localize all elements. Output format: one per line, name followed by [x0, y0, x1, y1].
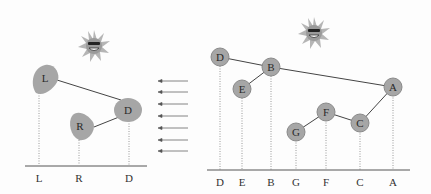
left-node-L: L	[33, 65, 59, 94]
right-axis-label: D	[216, 176, 224, 188]
right-node-B: B	[262, 58, 280, 76]
svg-text:D: D	[124, 104, 132, 116]
right-nodes: D B E A F G C	[211, 48, 402, 141]
svg-text:F: F	[323, 106, 329, 118]
left-axis-label: R	[75, 172, 83, 184]
left-node-D: D	[114, 98, 142, 122]
left-axis-label: D	[125, 172, 133, 184]
right-axis-label: A	[389, 176, 397, 188]
right-axis-label: G	[292, 176, 300, 188]
left-axis-label: L	[36, 172, 43, 184]
svg-text:E: E	[239, 83, 246, 95]
right-axis-label: F	[323, 176, 329, 188]
left-node-R: R	[70, 113, 94, 141]
right-axis-label: E	[239, 176, 246, 188]
right-axis-label: B	[267, 176, 274, 188]
right-node-F: F	[317, 103, 335, 121]
right-node-A: A	[384, 78, 402, 96]
sun-icon-right	[298, 17, 330, 49]
right-node-E: E	[233, 80, 251, 98]
sun-icon-left	[78, 30, 110, 62]
svg-text:B: B	[267, 61, 274, 73]
svg-text:A: A	[389, 81, 397, 93]
tree-projection-diagram: L R D L R D	[0, 0, 431, 194]
arrow-icons	[158, 80, 188, 153]
diagram-canvas: L R D L R D	[0, 0, 431, 194]
svg-text:D: D	[216, 51, 224, 63]
right-node-C: C	[351, 114, 369, 132]
right-axis-label: C	[356, 176, 363, 188]
svg-text:G: G	[292, 126, 300, 138]
right-node-D: D	[211, 48, 229, 66]
right-node-G: G	[287, 123, 305, 141]
svg-text:R: R	[76, 120, 84, 132]
svg-text:L: L	[42, 72, 49, 84]
svg-text:C: C	[356, 117, 363, 129]
